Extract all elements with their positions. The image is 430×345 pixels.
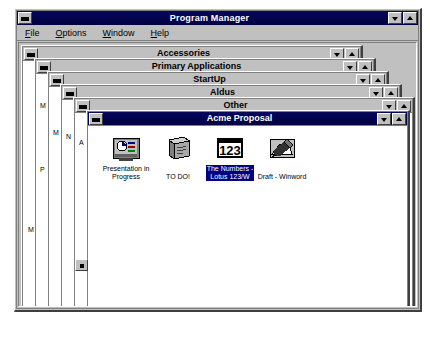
notepad-icon xyxy=(162,132,194,164)
program-item-label: The Numbers - Lotus 123/W xyxy=(206,165,255,181)
menu-item-window[interactable]: Window xyxy=(95,26,143,40)
svg-text:123: 123 xyxy=(219,143,241,158)
group-minimize-button[interactable] xyxy=(377,113,391,125)
program-item-label: Presentation in Progress xyxy=(102,165,151,181)
program-manager-window: Program Manager File Options Window Help… xyxy=(14,8,422,312)
peek-label-primary-b: P xyxy=(40,166,45,174)
title-bar: Program Manager xyxy=(17,11,418,25)
menu-item-options[interactable]: Options xyxy=(48,26,95,40)
menu-bar: File Options Window Help xyxy=(17,26,418,41)
program-manager-client-area: Accessories M Primary Applications xyxy=(18,42,417,307)
group-maximize-button[interactable] xyxy=(392,113,406,125)
peek-label-primary-a: M xyxy=(40,102,46,110)
system-menu-icon[interactable] xyxy=(18,12,32,24)
presentation-icon xyxy=(110,132,142,164)
program-item[interactable]: Presentation in Progress xyxy=(98,132,154,183)
winword-icon xyxy=(266,132,298,164)
program-item-selected[interactable]: 123 The Numbers - Lotus 123/W xyxy=(202,132,258,183)
menu-item-file-rest: ile xyxy=(31,28,40,38)
window-controls xyxy=(387,12,417,24)
program-item-list: Presentation in Progress xyxy=(88,126,407,307)
menu-item-window-rest: indow xyxy=(111,28,135,38)
menu-item-file[interactable]: File xyxy=(17,26,48,40)
maximize-button[interactable] xyxy=(403,12,417,24)
program-item[interactable]: TO DO! xyxy=(150,132,206,183)
menu-item-help[interactable]: Help xyxy=(143,26,178,40)
peek-label-other: A xyxy=(79,139,84,147)
minimized-group-icon[interactable] xyxy=(75,259,88,271)
group-window-acme-proposal[interactable]: Acme Proposal xyxy=(86,110,410,307)
page-title: Program Manager xyxy=(32,11,387,25)
program-item[interactable]: Draft - Winword xyxy=(254,132,310,183)
group-window-controls xyxy=(376,113,406,125)
group-body: Presentation in Progress xyxy=(88,125,407,307)
group-title-text: Acme Proposal xyxy=(103,112,376,125)
minimize-button[interactable] xyxy=(388,12,402,24)
group-system-menu-icon[interactable] xyxy=(89,113,103,125)
group-title-bar-active: Acme Proposal xyxy=(88,112,407,125)
peek-label-accessories: M xyxy=(28,226,34,234)
desktop: Program Manager File Options Window Help… xyxy=(0,0,430,345)
menu-item-help-rest: elp xyxy=(157,28,169,38)
program-item-label: Draft - Winword xyxy=(257,173,308,181)
peek-label-aldus: N xyxy=(66,133,71,141)
menu-item-options-rest: ptions xyxy=(63,28,87,38)
program-item-label: TO DO! xyxy=(165,173,191,181)
peek-label-startup: M xyxy=(53,129,59,137)
lotus123-icon: 123 xyxy=(214,132,246,164)
